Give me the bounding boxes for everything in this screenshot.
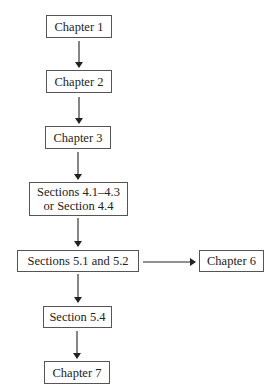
node-chapter-6: Chapter 6 (199, 250, 264, 272)
node-label: Chapter 3 (54, 131, 103, 145)
node-section-5-4: Section 5.4 (43, 306, 112, 328)
node-label: Sections 5.1 and 5.2 (27, 254, 128, 268)
node-label-line2: or Section 4.4 (44, 199, 114, 213)
node-chapter-7: Chapter 7 (44, 361, 110, 384)
node-chapter-2: Chapter 2 (46, 70, 112, 93)
node-label: Chapter 7 (53, 366, 102, 380)
node-label: Chapter 6 (207, 254, 256, 268)
node-label: Chapter 2 (55, 75, 104, 89)
node-chapter-1: Chapter 1 (46, 15, 112, 38)
node-label-line1: Sections 4.1–4.3 (37, 185, 120, 199)
node-chapter-3: Chapter 3 (45, 126, 111, 149)
node-sections-5-1-5-2: Sections 5.1 and 5.2 (17, 250, 139, 272)
node-sections-4: Sections 4.1–4.3 or Section 4.4 (29, 182, 128, 216)
node-label: Chapter 1 (55, 20, 104, 34)
node-label: Section 5.4 (49, 310, 105, 324)
